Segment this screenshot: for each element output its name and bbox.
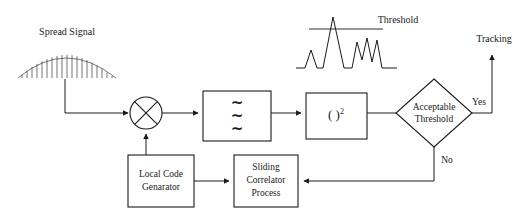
squaring-exponent: 2 (340, 107, 344, 116)
correlator-label-line3: Process (251, 188, 280, 198)
bandpass-filter-block[interactable]: ~ ~ ~ (203, 91, 271, 141)
correlator-label-line1: Sliding (252, 162, 280, 172)
threshold-decision-diamond[interactable]: Acceptable Threshold (396, 79, 472, 147)
local-code-generator-block[interactable]: Local Code Genarator (128, 155, 194, 207)
decision-label-line2: Threshold (415, 114, 454, 124)
squaring-base: ( ) (328, 107, 340, 122)
squaring-block[interactable]: ( )2 (306, 93, 367, 139)
mixer[interactable] (130, 97, 162, 129)
localcode-label-line2: Genarator (142, 182, 181, 192)
tracking-label: Tracking (476, 33, 512, 44)
localcode-label-line1: Local Code (139, 169, 183, 179)
filter-tilde-3: ~ (231, 120, 244, 138)
diagram-canvas: Spread Signal Threshold ~ ~ ~ (0, 0, 525, 214)
decision-label-line1: Acceptable (413, 102, 456, 112)
spread-signal-waveform (18, 55, 116, 78)
correlator-label-line2: Correlator (246, 175, 286, 185)
no-label: No (441, 155, 453, 165)
wire-input-to-mixer (65, 79, 128, 113)
signal-acquisition-diagram: Spread Signal Threshold ~ ~ ~ (0, 0, 525, 214)
no-branch-feedback (304, 147, 434, 181)
sliding-correlator-block[interactable]: Sliding Correlator Process (234, 155, 298, 207)
threshold-label: Threshold (378, 14, 419, 25)
yes-label: Yes (472, 97, 486, 107)
squaring-block-label: ( )2 (328, 107, 344, 122)
spread-signal-label: Spread Signal (39, 26, 95, 37)
